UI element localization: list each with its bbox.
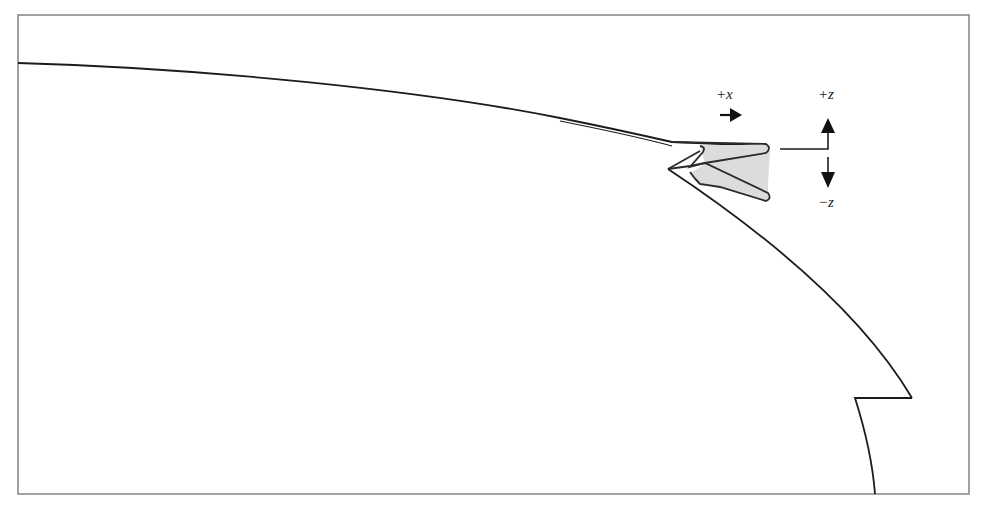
plus-x-label: +x — [716, 86, 733, 103]
descending-profile-curve — [668, 169, 912, 398]
plus-z-arrow-icon — [821, 118, 835, 133]
upper-profile-curve — [18, 63, 768, 146]
minus-z-arrow-icon — [821, 172, 835, 188]
z-reference-leader — [780, 132, 828, 149]
upper-profile-inner-curve — [560, 121, 672, 146]
bottom-step-profile — [855, 398, 912, 494]
minus-z-label: −z — [818, 194, 834, 211]
diagram-canvas — [0, 0, 982, 510]
plus-x-arrow-icon — [720, 108, 742, 122]
plus-z-label: +z — [818, 86, 834, 103]
